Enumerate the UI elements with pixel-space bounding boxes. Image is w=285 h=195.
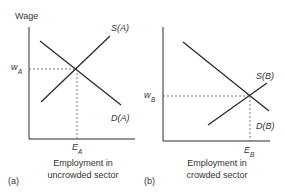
panel-a-demand-label: D(A)	[111, 113, 130, 123]
panel-a-x-label-line1: Employment in	[53, 158, 113, 168]
panel-b-x-label-line2: crowded sector	[186, 170, 247, 180]
panel-b: S(B) D(B) w B E B Employment in crowded …	[144, 27, 275, 186]
panel-a-y-axis-label: Wage	[15, 11, 38, 21]
panel-b-demand-label: D(B)	[256, 121, 275, 131]
panel-b-wage-sub: B	[151, 96, 156, 103]
panel-a-x-label-line2: uncrowded sector	[47, 170, 118, 180]
panel-b-supply-label: S(B)	[256, 71, 274, 81]
panel-a-tag: (a)	[8, 176, 19, 186]
labor-market-diagram: Wage S(A) D(A) w A E A Employment in unc…	[0, 0, 285, 195]
panel-b-wage-label: w	[144, 90, 151, 100]
panel-a-wage-sub: A	[17, 68, 22, 75]
panel-b-emp-sub: B	[250, 151, 255, 158]
panel-b-tag: (b)	[144, 176, 155, 186]
panel-a: Wage S(A) D(A) w A E A Employment in unc…	[8, 11, 135, 186]
panel-a-emp-sub: A	[77, 148, 82, 155]
panel-a-demand-curve	[40, 41, 121, 105]
panel-b-x-label-line1: Employment in	[187, 158, 247, 168]
panel-a-supply-label: S(A)	[111, 23, 129, 33]
panel-a-wage-label: w	[11, 62, 18, 72]
panel-b-supply-curve	[208, 83, 267, 125]
